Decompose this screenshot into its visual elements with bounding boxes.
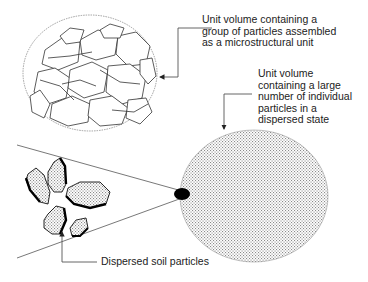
dispersed-particles-label: Dispersed soil particles xyxy=(101,256,209,268)
dispersed-volume-label: Unit volume containing a large number of… xyxy=(258,68,352,126)
fan-line-lower xyxy=(17,198,182,258)
aggregate-unit-volume xyxy=(23,15,157,131)
aggregate-label: Unit volume containing a group of partic… xyxy=(202,14,336,49)
dispersed-particles xyxy=(26,158,110,236)
selected-point-dot xyxy=(174,188,190,200)
dispersed-volume-leader-line xyxy=(224,94,252,129)
dispersed-unit-volume xyxy=(180,130,328,262)
